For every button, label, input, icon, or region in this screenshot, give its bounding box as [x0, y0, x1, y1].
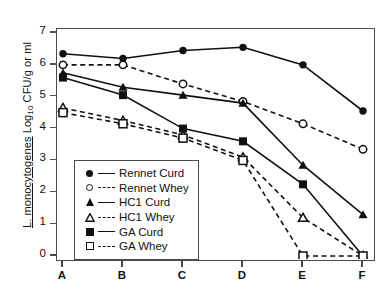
- legend-line-sample: [98, 187, 115, 188]
- legend-dashed-segment: [98, 187, 115, 188]
- legend-label: HC1 Curd: [119, 196, 170, 208]
- data-point: [239, 137, 247, 145]
- legend-entry: HC1 Curd: [82, 195, 189, 210]
- legend-solid-segment: [98, 231, 115, 233]
- data-point: [179, 134, 187, 142]
- x-axis-tick: [361, 261, 362, 267]
- data-point: [359, 107, 366, 114]
- data-point: [59, 50, 66, 57]
- data-point: [59, 61, 66, 68]
- data-point: [299, 252, 307, 259]
- legend-label: Rennet Curd: [119, 167, 184, 179]
- open-triangle-icon: [85, 213, 95, 222]
- x-axis-tick: [301, 261, 302, 267]
- filled-square-glyph: [86, 228, 94, 236]
- legend-label: Rennet Whey: [119, 182, 189, 194]
- legend-marker-open-circle-icon: [82, 184, 97, 191]
- data-point: [299, 180, 307, 188]
- legend-line-sample: [98, 231, 115, 233]
- legend-label: GA Curd: [119, 226, 163, 238]
- legend-entry: HC1 Whey: [82, 210, 189, 225]
- legend-marker-open-square-icon: [82, 242, 97, 250]
- legend-marker-filled-circle-icon: [82, 170, 97, 177]
- legend-entry: GA Curd: [82, 224, 189, 239]
- chart-legend: Rennet CurdRennet WheyHC1 CurdHC1 WheyGA…: [74, 160, 199, 260]
- data-point: [239, 156, 247, 164]
- legend-solid-segment: [98, 173, 115, 175]
- data-point: [299, 120, 306, 127]
- y-axis-tick-label: 6: [24, 56, 46, 68]
- legend-dashed-segment: [98, 217, 115, 218]
- data-point: [359, 252, 367, 259]
- series-line: [63, 65, 363, 149]
- legend-marker-filled-square-icon: [82, 228, 97, 236]
- legend-line-sample: [98, 246, 115, 247]
- data-point: [59, 109, 67, 117]
- y-axis-tick-label: 4: [24, 120, 46, 132]
- x-axis-tick-label: F: [351, 269, 373, 281]
- x-axis-tick: [241, 261, 242, 267]
- y-axis-tick-label: 3: [24, 151, 46, 163]
- open-circle-glyph: [86, 184, 93, 191]
- legend-marker-filled-triangle-icon: [82, 198, 97, 206]
- legend-entry: Rennet Curd: [82, 166, 189, 181]
- data-point: [239, 44, 246, 51]
- legend-line-sample: [98, 217, 115, 218]
- series-rennet-whey: [59, 61, 366, 153]
- x-axis-tick: [121, 261, 122, 267]
- y-axis-tick-label: 7: [24, 24, 46, 36]
- series-line: [63, 47, 363, 111]
- data-point: [359, 146, 366, 153]
- legend-marker-open-triangle-icon: [82, 213, 97, 222]
- legend-solid-segment: [98, 202, 115, 204]
- data-point: [179, 47, 186, 54]
- x-axis-tick-label: B: [111, 269, 133, 281]
- data-point: [299, 61, 306, 68]
- x-axis-tick-label: A: [51, 269, 73, 281]
- y-axis-tick-label: 0: [24, 247, 46, 259]
- legend-entry: Rennet Whey: [82, 181, 189, 196]
- open-square-glyph: [86, 242, 94, 250]
- x-axis-tick-label: D: [231, 269, 253, 281]
- series-rennet-curd: [59, 44, 366, 115]
- data-point: [119, 120, 127, 128]
- y-axis-tick-label: 1: [24, 215, 46, 227]
- chart-figure: L. monocytogenes Log10 CFU/g or ml 01234…: [0, 0, 390, 295]
- legend-dashed-segment: [98, 246, 115, 247]
- filled-circle-glyph: [86, 170, 93, 177]
- data-point: [59, 74, 67, 82]
- x-axis-tick-label: C: [171, 269, 193, 281]
- x-axis-tick: [181, 261, 182, 267]
- legend-entry: GA Whey: [82, 239, 189, 254]
- legend-line-sample: [98, 202, 115, 204]
- legend-label: GA Whey: [119, 240, 168, 252]
- legend-label: HC1 Whey: [119, 211, 175, 223]
- x-axis-tick-label: E: [291, 269, 313, 281]
- y-axis-tick-label: 2: [24, 183, 46, 195]
- x-axis-tick: [61, 261, 62, 267]
- y-axis-tick-label: 5: [24, 88, 46, 100]
- data-point: [179, 125, 187, 133]
- data-point: [179, 80, 186, 87]
- data-point: [119, 61, 126, 68]
- legend-line-sample: [98, 173, 115, 175]
- filled-triangle-glyph: [86, 198, 94, 206]
- data-point: [119, 91, 127, 99]
- y-axis-title-subscript: 10: [26, 106, 35, 115]
